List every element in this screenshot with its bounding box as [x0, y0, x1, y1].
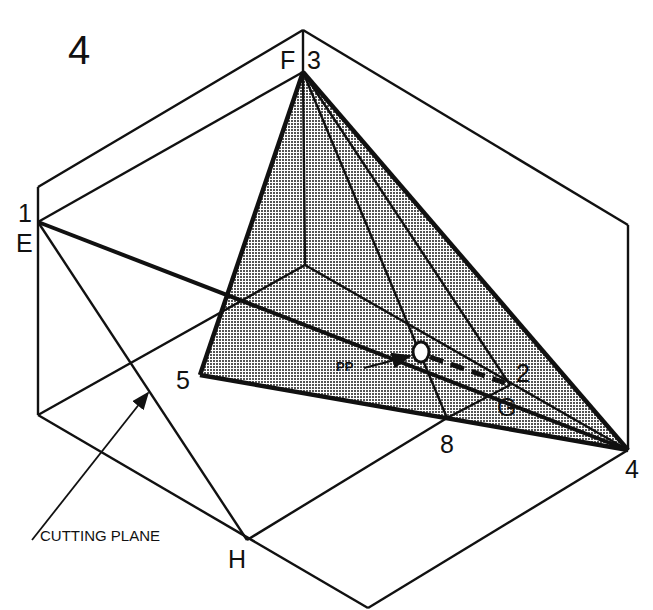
label-1: 1	[18, 199, 32, 227]
label-h: H	[228, 545, 246, 573]
cutting-plane-label: CUTTING PLANE	[40, 527, 160, 544]
label-8: 8	[440, 430, 454, 458]
label-e: E	[16, 229, 33, 257]
piercing-point-circle	[413, 342, 429, 362]
shaded-section-face	[200, 72, 628, 450]
label-pp: PP	[336, 359, 354, 374]
label-2: 2	[516, 359, 530, 387]
cutting-plane-arrow-icon	[32, 393, 148, 540]
label-3: 3	[307, 46, 321, 74]
label-4: 4	[625, 455, 639, 483]
isometric-cutting-plane-diagram: 4 F 3 1 E 5 PP 2 G 8 4 H CUTTING PLANE	[0, 0, 653, 610]
label-g: G	[497, 393, 516, 421]
figure-number: 4	[68, 28, 90, 72]
label-5: 5	[176, 366, 190, 394]
h-to-8-line	[247, 418, 447, 540]
label-f: F	[280, 46, 295, 74]
